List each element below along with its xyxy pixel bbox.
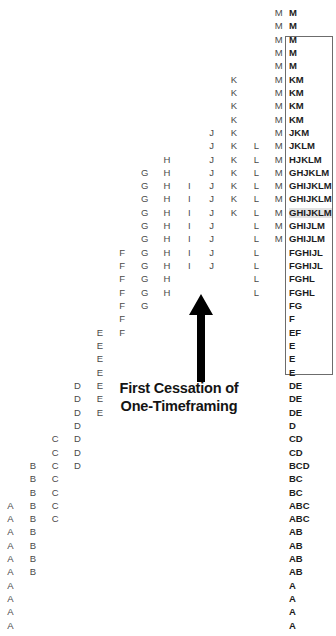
profile-row-label: DE (289, 408, 302, 418)
tpo-letter: G (139, 288, 151, 298)
tpo-letter: K (228, 181, 240, 191)
profile-row-label: KM (289, 115, 304, 125)
tpo-chart-canvas: MMMMMKMKMKMKMJKMJKLMHJKLMGHJKLMGHIJKLMGH… (0, 0, 336, 636)
tpo-letter: A (5, 607, 17, 617)
tpo-letter: M (273, 208, 285, 218)
tpo-letter: M (273, 234, 285, 244)
tpo-letter: M (273, 128, 285, 138)
tpo-letter: M (273, 221, 285, 231)
tpo-letter: B (27, 541, 39, 551)
tpo-letter: M (273, 155, 285, 165)
tpo-letter: I (183, 181, 195, 191)
tpo-letter: G (139, 221, 151, 231)
tpo-letter: E (94, 354, 106, 364)
tpo-letter: L (250, 208, 262, 218)
tpo-letter: K (228, 88, 240, 98)
tpo-letter: J (206, 128, 218, 138)
tpo-letter: K (228, 115, 240, 125)
profile-row-label: AB (289, 567, 303, 577)
tpo-letter: C (49, 461, 61, 471)
profile-row-label: E (289, 354, 295, 364)
tpo-letter: H (161, 208, 173, 218)
tpo-letter: B (27, 567, 39, 577)
tpo-letter: K (228, 208, 240, 218)
profile-row-label: AB (289, 527, 303, 537)
tpo-letter: L (250, 155, 262, 165)
profile-row-label: GHIJLM (289, 221, 325, 231)
profile-row-label: EF (289, 328, 301, 338)
tpo-letter: J (206, 221, 218, 231)
tpo-letter: L (250, 261, 262, 271)
tpo-letter: B (27, 527, 39, 537)
tpo-letter: A (5, 514, 17, 524)
tpo-letter: D (72, 448, 84, 458)
tpo-letter: D (72, 394, 84, 404)
profile-row-label: DE (289, 394, 302, 404)
tpo-letter: K (228, 128, 240, 138)
profile-row-label: GHIJKLM (289, 208, 332, 218)
tpo-letter: K (228, 155, 240, 165)
tpo-letter: A (5, 554, 17, 564)
profile-row-label: E (289, 368, 295, 378)
tpo-letter: M (273, 88, 285, 98)
profile-row-label: AB (289, 554, 303, 564)
profile-row-label: FGHIJL (289, 261, 323, 271)
tpo-letter: B (27, 554, 39, 564)
tpo-letter: M (273, 194, 285, 204)
profile-row-label: CD (289, 448, 303, 458)
tpo-letter: I (183, 234, 195, 244)
cessation-label-line-1: First Cessation of (96, 379, 262, 397)
tpo-letter: L (250, 181, 262, 191)
profile-row-label: FGHL (289, 274, 315, 284)
profile-row-label: GHJKLM (289, 168, 329, 178)
tpo-letter: G (139, 274, 151, 284)
tpo-letter: D (72, 434, 84, 444)
profile-row-label: M (289, 48, 297, 58)
profile-row-label: M (289, 21, 297, 31)
tpo-letter: G (139, 248, 151, 258)
tpo-letter: K (228, 194, 240, 204)
tpo-letter: B (27, 501, 39, 511)
tpo-letter: M (273, 35, 285, 45)
tpo-letter: J (206, 194, 218, 204)
tpo-letter: M (273, 141, 285, 151)
tpo-letter: H (161, 274, 173, 284)
tpo-letter: J (206, 141, 218, 151)
tpo-letter: F (116, 328, 128, 338)
tpo-letter: H (161, 261, 173, 271)
tpo-letter: L (250, 168, 262, 178)
profile-row-label: F (289, 314, 295, 324)
tpo-letter: M (273, 8, 285, 18)
tpo-letter: M (273, 168, 285, 178)
tpo-letter: D (72, 408, 84, 418)
tpo-letter: E (94, 341, 106, 351)
tpo-letter: G (139, 261, 151, 271)
tpo-letter: F (116, 314, 128, 324)
tpo-letter: C (49, 514, 61, 524)
tpo-letter: J (206, 234, 218, 244)
profile-row-label: FG (289, 301, 302, 311)
tpo-letter: K (228, 101, 240, 111)
profile-row-label: ABC (289, 501, 310, 511)
tpo-letter: C (49, 434, 61, 444)
profile-row-label: A (289, 594, 296, 604)
tpo-letter: C (49, 474, 61, 484)
tpo-letter: M (273, 181, 285, 191)
tpo-letter: G (139, 194, 151, 204)
profile-row-label: BCD (289, 461, 310, 471)
tpo-letter: I (183, 208, 195, 218)
tpo-letter: H (161, 221, 173, 231)
profile-row-label: GHIJKLM (289, 194, 332, 204)
tpo-letter: L (250, 141, 262, 151)
tpo-letter: H (161, 181, 173, 191)
tpo-letter: A (5, 621, 17, 631)
tpo-letter: F (116, 261, 128, 271)
tpo-letter: J (206, 155, 218, 165)
tpo-letter: B (27, 488, 39, 498)
tpo-letter: G (139, 208, 151, 218)
tpo-letter: G (139, 234, 151, 244)
tpo-letter: F (116, 274, 128, 284)
profile-row-label: BC (289, 474, 303, 484)
profile-row-label: M (289, 35, 297, 45)
tpo-letter: J (206, 261, 218, 271)
